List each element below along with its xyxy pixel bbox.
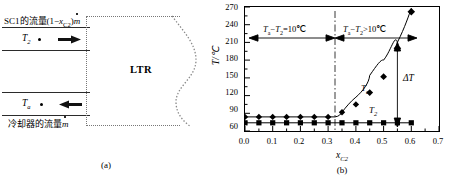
top-stream-caption-pre: SC1的流量(1− [4, 16, 59, 26]
top-temperature-subscript: 2 [27, 38, 30, 45]
annotation-right-text: Ta−T2>10℃ [343, 24, 386, 36]
ltr-label: LTR [86, 64, 196, 75]
plot-area: Ta−T2=10℃ Ta−T2>10℃ Ta T2 ΔT [244, 6, 440, 132]
series-label-T2-sub: 2 [374, 110, 377, 117]
delta-t-arrow [394, 42, 400, 127]
annotation-arrow-right [335, 35, 417, 41]
y-tick-90: 90 [214, 104, 238, 114]
series-label-Ta-sub: a [366, 88, 369, 95]
y-tick-270: 270 [214, 2, 238, 12]
caption-panel-a: (a) [0, 160, 212, 170]
top-stream-mdot: m [74, 16, 81, 26]
series-label-Ta: Ta [361, 83, 369, 95]
x-tick-0.1: 0.1 [259, 136, 285, 146]
x-tick-0.0: 0.0 [231, 136, 257, 146]
x-tick-0.5: 0.5 [369, 136, 395, 146]
top-temperature-point [38, 38, 41, 41]
series-label-T2: T2 [369, 105, 377, 117]
x-tick-0.3: 0.3 [314, 136, 340, 146]
top-stream-caption-sub: C2 [63, 21, 71, 28]
y-tick-120: 120 [214, 87, 238, 97]
panel-b-chart: T/℃ 270 240 210 180 150 120 90 60 [212, 0, 475, 181]
annotation-left-text: Ta−T2=10℃ [263, 24, 306, 36]
panel-a-diagram: LTR SC1的流量(1−xC2)m 冷却器的流量m T2 Ta (a) [0, 0, 212, 181]
caption-panel-b: (b) [212, 165, 472, 175]
x-tick-0.6: 0.6 [397, 136, 423, 146]
figure-root: LTR SC1的流量(1−xC2)m 冷却器的流量m T2 Ta (a) [0, 0, 475, 181]
y-tick-150: 150 [214, 70, 238, 80]
bottom-temperature-subscript: a [27, 103, 30, 110]
delta-t-label: ΔT [403, 73, 414, 83]
x-tick-0.7: 0.7 [425, 136, 451, 146]
y-tick-180: 180 [214, 53, 238, 63]
flow-arrow-left-icon [58, 100, 82, 109]
ltr-edge-bottom [86, 125, 180, 126]
bottom-stream-caption: 冷却器的流量m [8, 117, 69, 130]
bottom-temperature-label: Ta [22, 98, 31, 110]
top-temperature-label: T2 [22, 33, 31, 45]
channel-line-bottom-inner [2, 92, 90, 93]
y-tick-60: 60 [214, 121, 238, 131]
bottom-temperature-point [40, 103, 43, 106]
x-tick-0.4: 0.4 [342, 136, 368, 146]
y-tick-240: 240 [214, 19, 238, 29]
ltr-edge-top [86, 16, 180, 17]
y-tick-210: 210 [214, 36, 238, 46]
channel-line-top-inner [2, 50, 90, 51]
x-tick-0.2: 0.2 [286, 136, 312, 146]
x-axis-title: xC2 [212, 150, 472, 162]
bottom-stream-caption-text: 冷却器的流量 [8, 119, 62, 129]
channel-line-bottom-outer [2, 115, 90, 116]
flow-arrow-right-icon [58, 35, 82, 44]
top-stream-caption: SC1的流量(1−xC2)m [4, 14, 80, 28]
annotation-arrow-left [249, 35, 335, 41]
bottom-stream-mdot: m [62, 119, 69, 129]
